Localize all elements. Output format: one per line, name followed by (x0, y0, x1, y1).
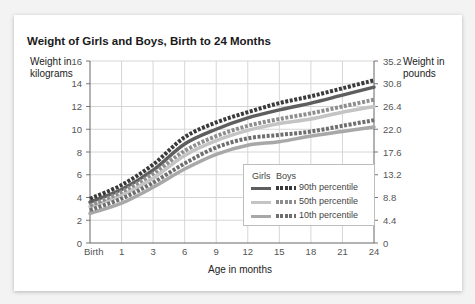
legend-girls-10-swatch (251, 215, 271, 218)
y-right-tick-label: 35.2 (383, 56, 402, 67)
y-right-tick-label: 4.4 (383, 215, 396, 226)
y-left-tick-label: 12 (71, 101, 82, 112)
x-tick-label: 21 (337, 246, 348, 257)
line-chart: 0024.448.8613.2817.61022.01226.41430.816… (0, 0, 475, 304)
y-right-tick-label: 26.4 (383, 101, 402, 112)
chart-legend: Girls Boys 90th percentile 50th percenti… (243, 164, 375, 226)
y-left-tick-label: 8 (77, 147, 82, 158)
legend-boys-header: Boys (276, 171, 296, 181)
y-left-tick-label: 4 (77, 192, 82, 203)
x-tick-label: 9 (214, 246, 219, 257)
y-right-tick-label: 30.8 (383, 78, 402, 89)
x-tick-label: 24 (369, 246, 380, 257)
x-tick-label: 18 (306, 246, 317, 257)
legend-label-90th: 90th percentile (299, 182, 358, 192)
y-left-tick-label: 6 (77, 169, 82, 180)
y-right-tick-label: 0 (383, 238, 388, 249)
y-left-tick-label: 16 (71, 56, 82, 67)
y-right-tick-label: 17.6 (383, 147, 402, 158)
legend-boys-50-swatch (276, 200, 296, 204)
legend-girls-50-swatch (251, 201, 271, 204)
y-left-tick-label: 14 (71, 78, 82, 89)
y-left-tick-label: 0 (77, 238, 82, 249)
legend-girls-header: Girls (252, 171, 271, 181)
x-tick-label: 3 (150, 246, 155, 257)
y-left-tick-label: 10 (71, 124, 82, 135)
x-tick-label: 6 (182, 246, 187, 257)
y-right-tick-label: 22.0 (383, 124, 402, 135)
legend-label-10th: 10th percentile (299, 210, 358, 220)
legend-label-50th: 50th percentile (299, 196, 358, 206)
x-tick-label: Birth (84, 246, 104, 257)
x-tick-label: 12 (242, 246, 253, 257)
legend-boys-90-swatch (276, 186, 296, 190)
legend-boys-10-swatch (276, 214, 296, 218)
x-tick-label: 15 (274, 246, 285, 257)
x-tick-label: 1 (119, 246, 124, 257)
y-left-tick-label: 2 (77, 215, 82, 226)
legend-girls-90-swatch (251, 187, 271, 190)
y-right-tick-label: 8.8 (383, 192, 396, 203)
y-right-tick-label: 13.2 (383, 169, 402, 180)
